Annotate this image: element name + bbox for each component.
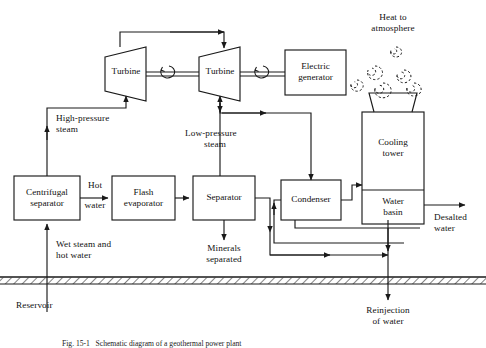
- generator-label-line1: Electric: [285, 61, 346, 72]
- centrifugal-separator-label-line1: Centrifugal: [12, 187, 82, 198]
- geothermal-plant-diagram: Turbine Turbine Electric generator Cooli…: [0, 0, 486, 348]
- pipe-high-pressure-steam: [47, 96, 126, 176]
- cooling-tower-label-line2: tower: [362, 148, 424, 159]
- heat-to-atmosphere-label-line2: atmosphere: [347, 23, 439, 34]
- ground-hatching: [0, 278, 486, 284]
- pipe-hp-exhaust-down: [170, 32, 224, 48]
- high-pressure-steam-label-line1: High-pressure: [56, 113, 109, 124]
- condenser-label: Condenser: [281, 194, 341, 205]
- wet-steam-label-line1: Wet steam and: [56, 239, 111, 250]
- centrifugal-separator-label-line2: separator: [12, 198, 82, 209]
- water-basin-label-line2: basin: [362, 207, 424, 218]
- reinjection-label-line1: Reinjection: [348, 305, 428, 316]
- turbine-hp-label: Turbine: [105, 66, 147, 77]
- hot-water-label-line1: Hot: [80, 180, 110, 191]
- low-pressure-steam-label-line2: steam: [185, 139, 245, 150]
- heat-to-atmosphere-label-line1: Heat to: [347, 12, 439, 23]
- generator-label-line2: generator: [285, 72, 346, 83]
- desalted-water-label-line1: Desalted: [434, 212, 467, 223]
- pipe-separator-brine-down: [255, 198, 270, 232]
- separator-label: Separator: [193, 192, 255, 203]
- reservoir-label: Reservoir: [16, 300, 53, 311]
- desalted-water-label-line2: water: [434, 223, 455, 234]
- low-pressure-steam-label-line1: Low-pressure: [185, 128, 237, 139]
- wet-steam-label-line2: hot water: [56, 250, 91, 261]
- minerals-label-line2: separated: [194, 254, 254, 265]
- flash-evaporator-label-line2: evaporator: [112, 198, 175, 209]
- pipe-condenser-to-tower: [341, 185, 362, 200]
- diagram-canvas: [0, 0, 486, 348]
- turbine-lp-label: Turbine: [199, 66, 241, 77]
- steam-puffs: [351, 47, 421, 98]
- high-pressure-steam-label-line2: steam: [56, 124, 78, 135]
- cooling-tower-label-line1: Cooling: [362, 137, 424, 148]
- reinjection-label-line2: of water: [348, 316, 428, 327]
- cooling-tower-stack: [369, 93, 417, 112]
- figure-caption: Fig. 15-1 Schematic diagram of a geother…: [62, 339, 241, 348]
- hot-water-label-line2: water: [80, 200, 110, 211]
- minerals-label-line1: Minerals: [194, 243, 254, 254]
- flash-evaporator-label-line1: Flash: [112, 187, 175, 198]
- pipe-hp-exhaust-top: [120, 32, 224, 47]
- water-basin-label-line1: Water: [362, 196, 424, 207]
